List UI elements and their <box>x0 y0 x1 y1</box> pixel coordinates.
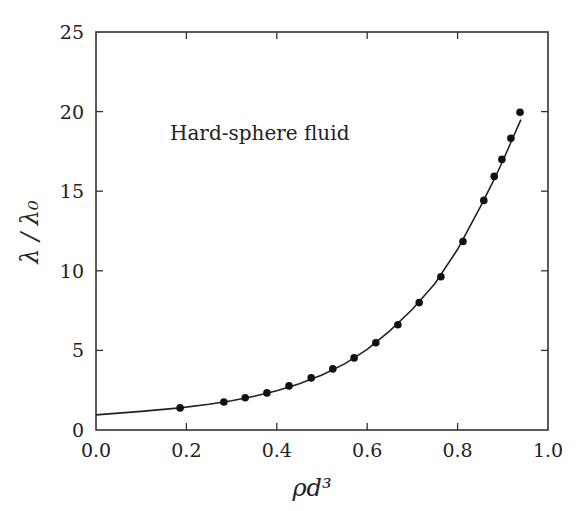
y-tick-label: 0 <box>72 419 84 441</box>
y-axis-ticks: 0510152025 <box>60 21 548 441</box>
data-point <box>507 135 515 143</box>
data-point <box>285 382 293 390</box>
data-point <box>516 108 524 116</box>
data-point <box>176 404 184 412</box>
data-point <box>415 299 423 307</box>
data-point <box>220 398 228 406</box>
data-point <box>437 273 445 281</box>
data-point <box>490 173 498 181</box>
chart-canvas: 0.00.20.40.60.81.0 0510152025 Hard-spher… <box>0 0 577 511</box>
data-point <box>372 339 380 347</box>
data-point <box>350 354 358 362</box>
series-layer <box>96 108 524 415</box>
theory-curve <box>96 120 521 415</box>
x-tick-label: 1.0 <box>533 439 563 461</box>
data-point <box>498 156 506 164</box>
data-point <box>329 365 337 373</box>
x-tick-label: 0.2 <box>171 439 201 461</box>
y-tick-label: 15 <box>60 180 84 202</box>
x-tick-label: 0.8 <box>442 439 472 461</box>
chart-annotation: Hard-sphere fluid <box>170 121 350 145</box>
data-point <box>241 394 249 402</box>
plot-frame <box>96 32 548 430</box>
x-tick-label: 0.6 <box>352 439 382 461</box>
data-point <box>480 197 488 205</box>
data-point <box>263 389 271 397</box>
y-tick-label: 25 <box>60 21 84 43</box>
data-point <box>394 321 402 329</box>
x-axis-ticks: 0.00.20.40.60.81.0 <box>81 32 563 461</box>
y-tick-label: 10 <box>60 260 84 282</box>
data-point <box>307 374 315 382</box>
y-tick-label: 5 <box>72 339 84 361</box>
x-axis-label: ρd³ <box>291 474 331 502</box>
plot-border <box>96 32 548 430</box>
y-tick-label: 20 <box>60 101 84 123</box>
x-tick-label: 0.4 <box>262 439 292 461</box>
y-axis-label: λ / λ₀ <box>16 200 44 265</box>
x-tick-label: 0.0 <box>81 439 111 461</box>
data-point <box>459 238 467 246</box>
